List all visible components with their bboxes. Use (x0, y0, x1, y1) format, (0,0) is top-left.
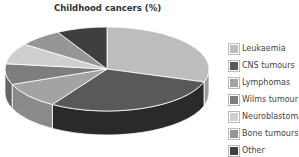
legend-label: Neuroblastoma (242, 112, 299, 121)
legend-label: CNS tumours (242, 61, 295, 70)
legend-item: Leukaemia (229, 40, 299, 57)
legend-swatch (229, 78, 239, 88)
legend-swatch (229, 112, 239, 122)
legend-label: Bone tumours (242, 129, 298, 138)
legend-swatch (229, 44, 239, 54)
legend-label: Wilms tumour (242, 95, 298, 104)
legend-item: CNS tumours (229, 57, 299, 74)
legend-swatch (229, 61, 239, 71)
legend-swatch (229, 146, 239, 156)
legend: LeukaemiaCNS tumoursLymphomasWilms tumou… (229, 40, 299, 157)
legend-swatch (229, 95, 239, 105)
legend-swatch (229, 129, 239, 139)
legend-item: Wilms tumour (229, 91, 299, 108)
legend-label: Other (242, 146, 265, 155)
legend-item: Other (229, 142, 299, 157)
legend-item: Neuroblastoma (229, 108, 299, 125)
legend-item: Lymphomas (229, 74, 299, 91)
legend-item: Bone tumours (229, 125, 299, 142)
legend-label: Lymphomas (242, 78, 290, 87)
legend-label: Leukaemia (242, 44, 286, 53)
pie-chart (0, 0, 215, 157)
